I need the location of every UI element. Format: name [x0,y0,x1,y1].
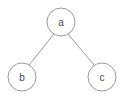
edge-a-c [68,34,94,65]
node-b: b [8,63,36,91]
node-a: a [47,8,75,36]
node-c: c [88,63,116,91]
edge-a-b [29,34,54,65]
tree-diagram: a b c [0,0,122,100]
node-b-label: b [19,72,25,83]
node-c-label: c [100,72,105,83]
node-a-label: a [58,17,64,28]
